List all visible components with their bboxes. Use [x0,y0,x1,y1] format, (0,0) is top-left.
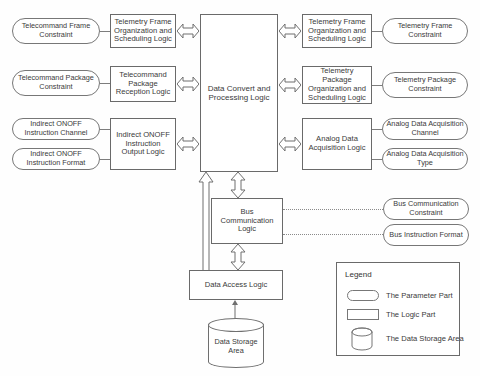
arrow-bidirectional-left-3 [177,136,199,152]
param-label: Indirect ONOFF Instruction Channel [16,120,96,137]
param-label: Telecommand Frame Constraint [16,22,96,39]
connector-bus-dotted-1 [283,209,383,210]
connector-left-4 [100,159,110,160]
node-telemetry-frame-organization-and-scheduling-logic-left[interactable]: Telemetry Frame Organization and Schedul… [110,14,176,48]
connector-bus-dotted-2 [283,234,383,235]
node-telecommand-package-reception-logic[interactable]: Telecommand Package Reception Logic [110,66,176,102]
param-telemetry-package-constraint[interactable]: Telemetry Package Constraint [382,72,468,98]
node-label: Telemetry Frame Organization and Schedul… [306,18,368,45]
param-label: Analog Data Acquisition Channel [386,120,464,137]
param-telecommand-package-constraint[interactable]: Telecommand Package Constraint [12,70,100,96]
connector-right-3 [372,129,382,130]
param-label: Telecommand Package Constraint [16,74,96,91]
arrow-bidirectional-center-bus [230,172,246,198]
node-label: Data Storage Area [208,328,264,366]
node-label: Bus Communication Logic [215,208,279,235]
connector-right-2 [372,85,382,86]
param-bus-communication-constraint[interactable]: Bus Communication Constraint [383,198,469,220]
legend-label-parameter-part: The Parameter Part [386,291,453,300]
connector-right-4 [372,159,382,160]
arrow-bidirectional-right-3 [279,136,301,152]
connector-left-3 [100,129,110,130]
node-telemetry-frame-organization-and-scheduling-logic-right[interactable]: Telemetry Frame Organization and Schedul… [302,14,372,48]
arrow-bidirectional-bus-data-access [230,244,246,270]
node-data-convert-and-processing-logic[interactable]: Data Convert and Processing Logic [200,14,278,172]
legend-swatch-logic-part [347,309,379,320]
param-label: Analog Data Acquisition Type [386,150,464,167]
param-bus-instruction-format[interactable]: Bus Instruction Format [383,224,469,246]
node-label: Telecommand Package Reception Logic [114,71,172,98]
param-label: Indirect ONOFF Instruction Format [16,150,96,167]
node-label: Telemetry Frame Organization and Schedul… [114,18,172,45]
node-label: Analog Data Acquisition Logic [306,135,368,153]
param-label: Bus Communication Constraint [387,200,465,217]
param-telemetry-frame-constraint[interactable]: Telemetry Frame Constraint [382,18,468,44]
node-telemetry-package-organization-and-scheduling-logic[interactable]: Telemetry Package Organization and Sched… [302,66,372,104]
node-label: Telemetry Package Organization and Sched… [306,67,368,103]
arrow-bidirectional-right-2 [279,77,301,93]
param-analog-data-acquisition-channel[interactable]: Analog Data Acquisition Channel [382,118,468,140]
legend-label-logic-part: The Logic Part [386,310,435,319]
node-bus-communication-logic[interactable]: Bus Communication Logic [211,198,283,244]
connector-right-1 [372,31,382,32]
param-indirect-onoff-instruction-format[interactable]: Indirect ONOFF Instruction Format [12,148,100,170]
param-analog-data-acquisition-type[interactable]: Analog Data Acquisition Type [382,148,468,170]
arrow-bidirectional-right-1 [279,23,301,39]
legend-label-data-storage-area: The Data Storage Area [386,334,464,343]
connector-left-1 [100,31,110,32]
node-data-storage-area[interactable]: Data Storage Area [208,318,264,368]
legend-swatch-parameter-part [347,290,379,301]
diagram-canvas: Data Convert and Processing Logic Teleco… [0,0,480,376]
node-indirect-onoff-instruction-output-logic[interactable]: Indirect ONOFF Instruction Output Logic [110,118,176,170]
arrow-bidirectional-left-1 [177,23,199,39]
legend-title: Legend [345,270,372,279]
node-data-access-logic[interactable]: Data Access Logic [189,270,283,300]
node-label: Data Convert and Processing Logic [205,84,273,103]
param-indirect-onoff-instruction-channel[interactable]: Indirect ONOFF Instruction Channel [12,118,100,140]
param-label: Telemetry Frame Constraint [386,22,464,39]
node-label: Data Access Logic [205,281,267,290]
connector-left-2 [100,83,110,84]
param-label: Bus Instruction Format [389,231,462,240]
param-telecommand-frame-constraint[interactable]: Telecommand Frame Constraint [12,18,100,44]
param-label: Telemetry Package Constraint [386,76,464,93]
legend-swatch-data-storage-area [350,327,374,351]
node-label: Indirect ONOFF Instruction Output Logic [114,131,172,158]
arrow-bidirectional-left-2 [177,76,199,92]
node-analog-data-acquisition-logic[interactable]: Analog Data Acquisition Logic [302,118,372,170]
